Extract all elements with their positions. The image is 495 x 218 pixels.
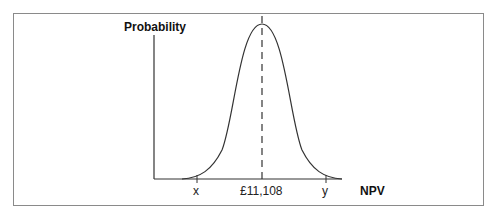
tick-label-x: x: [193, 184, 199, 198]
y-axis-label: Probability: [124, 20, 186, 34]
tick-label-y: y: [322, 184, 328, 198]
tick-label-mean: £11,108: [240, 184, 283, 198]
x-axis-label: NPV: [360, 184, 385, 198]
